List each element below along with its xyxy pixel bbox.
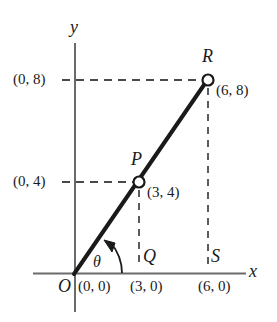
angle-arc-arrowhead	[104, 240, 115, 252]
coordinate-diagram: y x (0, 8) (0, 4) R (6, 8) P (3, 4) θ Q …	[0, 0, 277, 322]
point-label-O: O	[58, 277, 71, 295]
angle-label-theta: θ	[93, 254, 101, 270]
point-label-Q: Q	[143, 247, 156, 265]
point-coord-O: (0, 0)	[78, 279, 111, 294]
point-coord-S: (6, 0)	[198, 279, 231, 294]
y-axis-label: y	[70, 18, 78, 36]
point-label-P: P	[131, 150, 142, 168]
x-axis-label: x	[249, 262, 257, 280]
y-tick-label-0-4: (0, 4)	[13, 174, 46, 189]
point-coord-R: (6, 8)	[216, 83, 249, 98]
point-label-R: R	[202, 47, 213, 65]
y-tick-label-0-8: (0, 8)	[13, 72, 46, 87]
point-coord-P: (3, 4)	[147, 185, 180, 200]
point-coord-Q: (3, 0)	[130, 279, 163, 294]
point-label-S: S	[211, 247, 220, 265]
point-marker-R	[203, 75, 214, 86]
point-marker-P	[134, 177, 145, 188]
